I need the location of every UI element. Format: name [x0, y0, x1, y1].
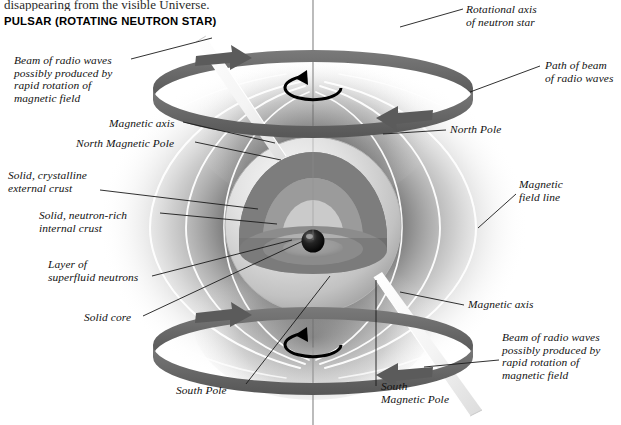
label-solid-core: Solid core: [84, 311, 131, 324]
label-magnetic-axis-top: Magnetic axis: [109, 117, 175, 130]
label-beam-of-radio-waves-bottom: Beam of radio waves possibly produced by…: [502, 331, 600, 381]
label-beam-of-radio-waves-top: Beam of radio waves possibly produced by…: [14, 54, 112, 104]
label-magnetic-axis-bottom: Magnetic axis: [468, 298, 534, 311]
label-solid-neutron-rich-internal-crust: Solid, neutron-rich internal crust: [39, 209, 127, 234]
page-title: PULSAR (ROTATING NEUTRON STAR): [4, 15, 216, 27]
label-path-of-beam: Path of beam of radio waves: [545, 59, 613, 84]
cut-off-previous-line: disappearing from the visible Universe.: [4, 0, 334, 11]
label-south-magnetic-pole: South Magnetic Pole: [381, 380, 449, 405]
label-rotational-axis: Rotational axis of neutron star: [466, 3, 537, 28]
label-north-pole: North Pole: [450, 123, 501, 136]
label-solid-crystalline-external-crust: Solid, crystalline external crust: [8, 169, 87, 194]
label-layer-of-superfluid-neutrons: Layer of superfluid neutrons: [48, 258, 138, 283]
label-south-pole: South Pole: [176, 384, 227, 397]
pulsar-diagram-figure: disappearing from the visible Universe. …: [0, 0, 621, 425]
label-magnetic-field-line: Magnetic field line: [519, 178, 563, 203]
label-north-magnetic-pole: North Magnetic Pole: [76, 137, 174, 150]
